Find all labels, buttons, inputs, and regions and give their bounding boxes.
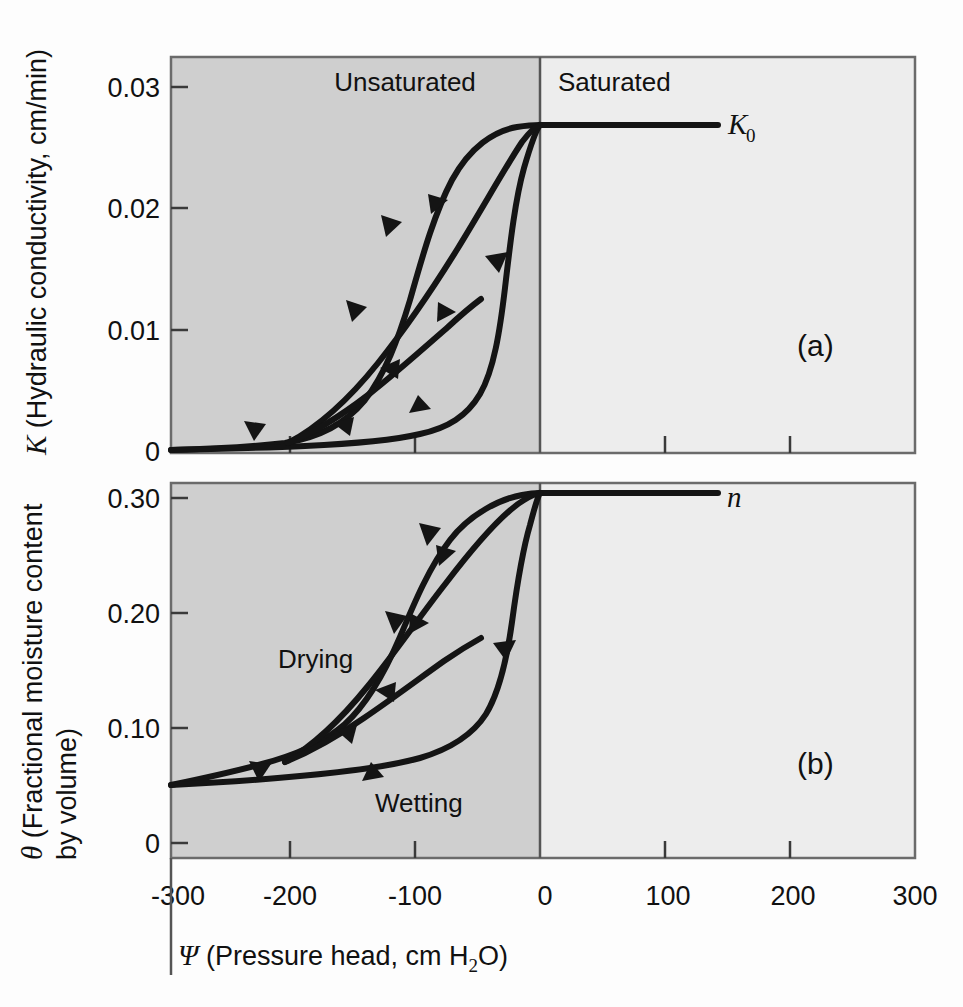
panel-b-wetting-label: Wetting [375,788,463,818]
xtick-label-300: 300 [892,881,937,911]
xtick-label-0: 0 [537,881,552,911]
panel-a-yaxis-symbol: K [20,434,52,456]
panel-a-ylabel-0: 0 [145,437,160,467]
panel-a-unsaturated-zone [171,57,540,453]
xtick-label-200: 200 [770,881,815,911]
xtick-label--100: -100 [388,881,442,911]
panel-a-unsaturated-label: Unsaturated [334,67,476,97]
xaxis-title-subscript: 2 [468,955,478,976]
panel-b: 0.30 0.20 0.10 0 n (b) Drying Wetting [107,481,915,859]
panel-b-ylabel-0.10: 0.10 [107,714,160,744]
panel-b-ylabel-0: 0 [145,829,160,859]
panel-b-yaxis-title-line1: θ (Fractional moisture content [16,503,48,860]
panel-a-ylabel-0.03: 0.03 [107,73,160,103]
panel-b-ylabel-0.30: 0.30 [107,484,160,514]
soil-hysteresis-figure: 0.03 0.02 0.01 0 Unsaturated Saturated K… [0,0,963,1007]
svg-text:K (Hydraulic conductivity, cm/: K (Hydraulic conductivity, cm/min) [20,49,52,456]
panel-b-drying-label: Drying [278,644,353,674]
panel-b-letter: (b) [797,747,834,780]
panel-b-yaxis-symbol: θ [16,846,48,860]
xtick-label--200: -200 [263,881,317,911]
panel-b-yaxis-text2: by volume) [52,728,82,860]
xaxis-title: Ψ (Pressure head, cm H2O) [178,939,508,976]
panel-a-ylabel-0.02: 0.02 [107,194,160,224]
xaxis-title-tail: O) [478,941,508,971]
xtick-label-100: 100 [645,881,690,911]
panel-b-ylabel-0.20: 0.20 [107,599,160,629]
svg-text:θ (Fractional moisture content: θ (Fractional moisture content [16,503,48,860]
panel-b-yaxis-title-line2: by volume) [52,728,82,860]
xaxis-title-text: (Pressure head, cm H [198,941,468,971]
xtick-label--300: -300 [151,881,205,911]
panel-b-n-annotation: n [727,481,742,513]
panel-a-yaxis-title: K (Hydraulic conductivity, cm/min) [20,49,52,456]
panel-b-yaxis-text1: (Fractional moisture content [18,503,48,846]
panel-a-yaxis-text: (Hydraulic conductivity, cm/min) [22,49,52,436]
panel-a-ylabel-0.01: 0.01 [107,316,160,346]
panel-a: 0.03 0.02 0.01 0 Unsaturated Saturated K… [107,57,915,467]
panel-a-letter: (a) [797,329,834,362]
figure-root: 0.03 0.02 0.01 0 Unsaturated Saturated K… [0,0,963,1007]
svg-text:0: 0 [746,125,756,146]
panel-a-saturated-label: Saturated [558,67,671,97]
